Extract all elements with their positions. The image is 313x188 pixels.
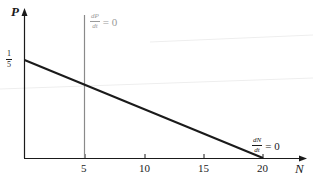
x-tick-label-15: 15	[198, 163, 209, 174]
phase-plane-diagram	[0, 0, 313, 188]
background-artifact-line	[150, 35, 313, 42]
x-tick-label-10: 10	[139, 163, 150, 174]
dn-numerator: dN	[252, 137, 262, 146]
dn-dt-nullcline	[25, 60, 264, 158]
dp-numerator: dP	[90, 13, 100, 22]
dp-denominator: dt	[92, 22, 97, 30]
dp-rhs: = 0	[103, 16, 117, 28]
y-axis-arrow-icon	[22, 8, 28, 16]
dn-dt-zero-label: dN dt = 0	[252, 137, 280, 154]
y-tick-denominator: 5	[7, 60, 11, 69]
y-axis-label: P	[11, 5, 19, 18]
y-tick-numerator: 1	[6, 50, 12, 60]
x-axis-label: N	[295, 162, 304, 175]
x-tick-label-20: 20	[257, 163, 268, 174]
y-tick-label-one-fifth: 1 5	[6, 50, 12, 69]
dp-dt-zero-label: dP dt = 0	[90, 13, 117, 30]
dn-rhs: = 0	[265, 140, 279, 152]
x-tick-label-5: 5	[81, 163, 87, 174]
background-artifact-line	[0, 78, 313, 89]
dn-denominator: dt	[254, 146, 259, 154]
